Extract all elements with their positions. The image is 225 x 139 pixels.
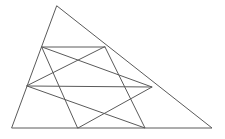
figure-root	[0, 0, 225, 139]
geometry-diagram	[0, 0, 225, 139]
